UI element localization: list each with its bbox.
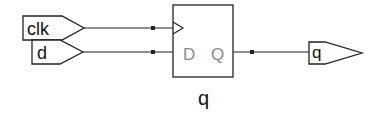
input-port-d[interactable]: d (32, 40, 83, 64)
schematic: clk d D Q q q (0, 0, 376, 121)
junction-dot-d (151, 50, 155, 54)
input-port-d-label: d (37, 43, 47, 63)
input-port-clk[interactable]: clk (23, 16, 84, 40)
junction-dot-clk (151, 26, 155, 30)
input-port-clk-label: clk (27, 19, 50, 39)
pin-d-label: D (183, 45, 195, 64)
output-port-q[interactable]: q (309, 42, 362, 64)
flipflop[interactable]: D Q (173, 5, 233, 77)
junction-dot-q (250, 50, 254, 54)
output-port-q-label: q (312, 43, 321, 62)
pin-q-label: Q (211, 45, 224, 64)
instance-label: q (198, 87, 209, 109)
